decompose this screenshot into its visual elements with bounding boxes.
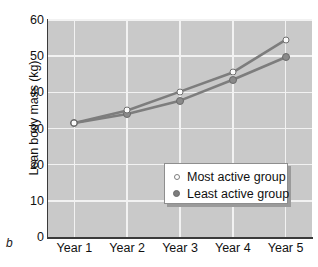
data-point-marker (229, 76, 237, 84)
legend-item-least-active: Least active group (171, 185, 281, 202)
lean-body-mass-chart-figure: b Lean body mass (kg) 0102030405060 Year… (0, 0, 318, 267)
y-axis-tick-label: 50 (18, 50, 44, 62)
plot-area: Most active group Least active group (48, 20, 312, 237)
legend-item-most-active: Most active group (171, 168, 281, 185)
data-point-marker (282, 53, 290, 61)
x-axis-tick-label: Year 1 (44, 241, 104, 255)
x-axis-tick-label: Year 5 (256, 241, 316, 255)
legend-label-most-active: Most active group (187, 170, 286, 184)
data-point-marker (71, 120, 78, 127)
y-axis-tick-label: 0 (18, 231, 44, 243)
x-axis-tick-label: Year 3 (150, 241, 210, 255)
x-axis-line (47, 237, 313, 239)
y-axis-tick-label: 20 (18, 159, 44, 171)
series-line-most-active (74, 40, 285, 123)
data-point-marker (177, 88, 184, 95)
filled-circle-icon (171, 188, 182, 199)
legend-label-least-active: Least active group (187, 187, 289, 201)
data-point-marker (124, 107, 131, 114)
y-axis-tick-label: 60 (18, 14, 44, 26)
data-point-marker (176, 97, 184, 105)
y-axis-tick-label: 30 (18, 123, 44, 135)
panel-label: b (6, 236, 13, 250)
chart-legend: Most active group Least active group (164, 163, 288, 204)
data-point-marker (229, 69, 236, 76)
open-circle-icon (171, 171, 182, 182)
y-axis-title: Lean body mass (kg) (27, 18, 41, 218)
x-axis-tick-label: Year 4 (203, 241, 263, 255)
y-axis-tick-label: 40 (18, 86, 44, 98)
y-axis-tick-label: 10 (18, 195, 44, 207)
x-axis-tick-label: Year 2 (97, 241, 157, 255)
data-point-marker (282, 36, 289, 43)
